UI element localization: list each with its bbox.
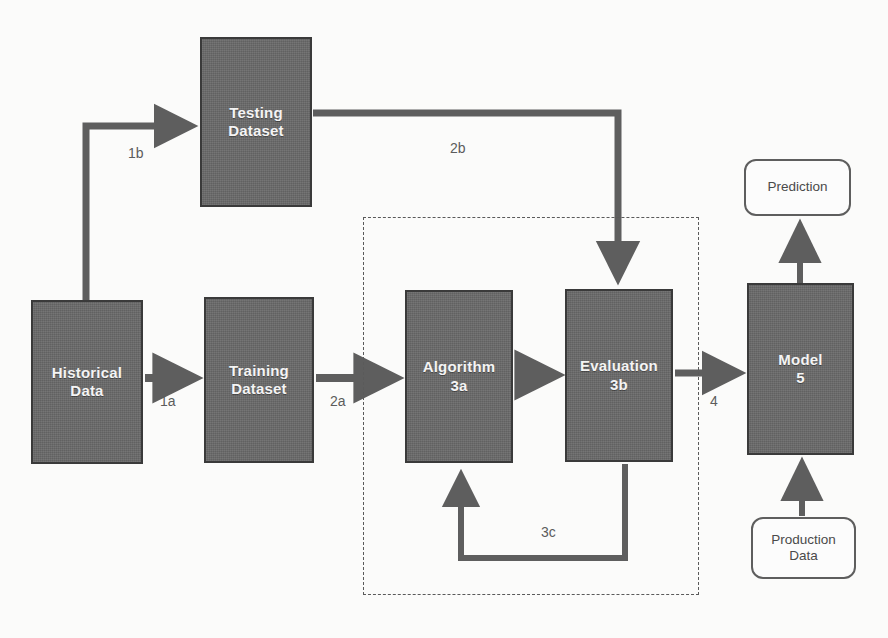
edge-label-2a: 2a <box>330 393 346 409</box>
node-evaluation[interactable]: Evaluation3b <box>565 289 673 462</box>
node-production-data-line-1: Data <box>789 548 818 564</box>
edge-label-4: 4 <box>710 393 718 409</box>
node-historical-data-line-1: Data <box>70 382 103 400</box>
diagram-canvas: TestingDatasetHistoricalDataTrainingData… <box>0 0 888 638</box>
node-testing-dataset-line-1: Dataset <box>228 122 284 140</box>
node-production-data-line-0: Production <box>771 532 836 548</box>
edge-label-2b: 2b <box>450 140 466 156</box>
node-evaluation-line-1: 3b <box>610 376 628 394</box>
node-testing-dataset-line-0: Testing <box>229 104 283 122</box>
node-training-dataset[interactable]: TrainingDataset <box>204 297 314 463</box>
node-algorithm-line-1: 3a <box>450 377 467 395</box>
node-historical-data-line-0: Historical <box>52 364 122 382</box>
node-model[interactable]: Model5 <box>747 283 854 455</box>
edge-label-1b: 1b <box>128 145 144 161</box>
node-algorithm-line-0: Algorithm <box>423 358 496 376</box>
node-historical-data[interactable]: HistoricalData <box>31 300 143 464</box>
edge-label-1a: 1a <box>160 393 176 409</box>
node-prediction[interactable]: Prediction <box>744 159 851 216</box>
node-model-line-1: 5 <box>796 369 805 387</box>
edge-label-3c: 3c <box>541 524 556 540</box>
node-production-data[interactable]: ProductionData <box>751 517 856 579</box>
node-testing-dataset[interactable]: TestingDataset <box>200 37 312 207</box>
node-training-dataset-line-0: Training <box>229 362 289 380</box>
node-evaluation-line-0: Evaluation <box>580 357 658 375</box>
node-prediction-line-0: Prediction <box>767 179 827 195</box>
node-algorithm[interactable]: Algorithm3a <box>405 290 513 463</box>
node-model-line-0: Model <box>778 351 822 369</box>
node-training-dataset-line-1: Dataset <box>231 380 287 398</box>
